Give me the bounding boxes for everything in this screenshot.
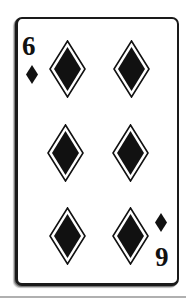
diamond-icon — [112, 207, 149, 265]
rank-index-bottom: 6 — [155, 243, 169, 270]
diamond-icon — [113, 40, 150, 98]
rank-index-top: 6 — [22, 33, 36, 60]
diamond-icon — [26, 65, 38, 84]
diamond-icon — [49, 40, 86, 98]
diamond-icon — [49, 207, 86, 265]
diamond-icon — [112, 124, 149, 182]
diamond-icon — [155, 213, 167, 232]
divider — [0, 296, 186, 298]
playing-card: 6 6 — [15, 17, 179, 286]
diamond-icon — [47, 124, 84, 182]
